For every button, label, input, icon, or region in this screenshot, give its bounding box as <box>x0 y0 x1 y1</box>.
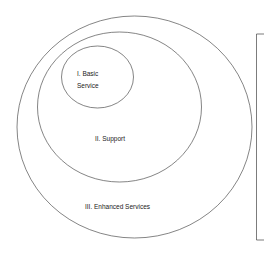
nested-ellipse-diagram <box>0 0 264 259</box>
support-ellipse <box>38 32 202 182</box>
basic-service-ellipse <box>62 46 134 108</box>
basic-service-label-line2: Service <box>77 82 99 89</box>
right-bracket-box <box>257 34 265 240</box>
enhanced-services-label: III. Enhanced Services <box>85 203 150 210</box>
basic-service-label-line1: I. Basic <box>77 70 98 77</box>
support-label: II. Support <box>95 135 125 142</box>
